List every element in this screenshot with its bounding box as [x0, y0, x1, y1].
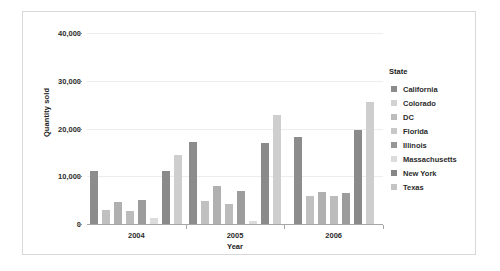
- legend-swatch-icon: [391, 128, 397, 134]
- legend-title: State: [389, 67, 489, 76]
- bar: [162, 171, 170, 224]
- y-tick-label: 30,000: [35, 76, 81, 85]
- x-axis-end-tick: [383, 225, 384, 229]
- legend-swatch-icon: [391, 86, 397, 92]
- legend-item-label: California: [403, 85, 438, 94]
- bar: [318, 192, 326, 224]
- x-axis-group-divider: [186, 225, 187, 229]
- y-tick-label: 10,000: [35, 172, 81, 181]
- bar: [261, 143, 269, 224]
- bar: [189, 142, 197, 224]
- legend-item-label: Texas: [403, 183, 424, 192]
- y-tick-mark: [77, 224, 82, 225]
- legend-item-label: Florida: [403, 127, 428, 136]
- x-axis-group-divider: [284, 225, 285, 229]
- bar: [237, 191, 245, 224]
- x-tick-label: 2004: [106, 231, 166, 240]
- bar: [201, 201, 209, 224]
- bar: [114, 202, 122, 224]
- legend-item[interactable]: Florida: [391, 124, 489, 138]
- legend-items: CaliforniaColoradoDCFloridaIllinoisMassa…: [389, 82, 489, 194]
- bar: [330, 196, 338, 224]
- legend-swatch-icon: [391, 156, 397, 162]
- bar: [102, 210, 110, 224]
- legend-item-label: New York: [403, 169, 437, 178]
- legend-item-label: Massachusetts: [403, 155, 457, 164]
- legend-swatch-icon: [391, 184, 397, 190]
- bar: [126, 211, 134, 224]
- legend-item[interactable]: Illinois: [391, 138, 489, 152]
- bar: [213, 186, 221, 224]
- chart-legend: State CaliforniaColoradoDCFloridaIllinoi…: [389, 67, 489, 194]
- y-axis-labels: 40,00030,00020,00010,0000: [29, 12, 81, 256]
- y-tick-mark: [77, 81, 82, 82]
- legend-item[interactable]: Massachusetts: [391, 152, 489, 166]
- bar: [273, 115, 281, 224]
- y-tick-mark: [77, 176, 82, 177]
- plot-area: [87, 17, 383, 225]
- legend-swatch-icon: [391, 100, 397, 106]
- bar: [306, 196, 314, 224]
- legend-item-label: DC: [403, 113, 414, 122]
- y-tick-mark: [77, 33, 82, 34]
- legend-item-label: Illinois: [403, 141, 427, 150]
- legend-item-label: Colorado: [403, 99, 436, 108]
- y-tick-label: 20,000: [35, 124, 81, 133]
- legend-item[interactable]: California: [391, 82, 489, 96]
- chart-frame: Quantity sold 40,00030,00020,00010,0000 …: [22, 11, 476, 255]
- bar: [174, 155, 182, 224]
- bar: [342, 193, 350, 225]
- legend-item[interactable]: Colorado: [391, 96, 489, 110]
- bar: [354, 130, 362, 224]
- bar: [225, 204, 233, 224]
- x-axis-title: Year: [87, 242, 383, 251]
- x-tick-label: 2006: [304, 231, 364, 240]
- y-tick-label: 0: [35, 220, 81, 229]
- bar: [90, 171, 98, 224]
- bar: [138, 200, 146, 224]
- bar: [294, 137, 302, 224]
- legend-item[interactable]: DC: [391, 110, 489, 124]
- bars-layer: [87, 17, 383, 225]
- legend-item[interactable]: Texas: [391, 180, 489, 194]
- legend-swatch-icon: [391, 142, 397, 148]
- legend-swatch-icon: [391, 114, 397, 120]
- bar: [366, 102, 374, 224]
- x-tick-label: 2005: [205, 231, 265, 240]
- legend-item[interactable]: New York: [391, 166, 489, 180]
- legend-swatch-icon: [391, 170, 397, 176]
- y-tick-mark: [77, 129, 82, 130]
- y-tick-label: 40,000: [35, 29, 81, 38]
